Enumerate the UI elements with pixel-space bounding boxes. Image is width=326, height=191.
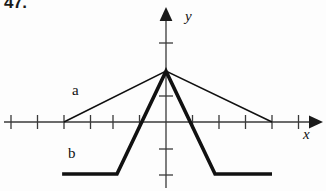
curve-a-label: a	[72, 83, 79, 98]
curve-b-label: b	[68, 146, 76, 161]
x-axis-arrowhead	[309, 116, 323, 129]
y-axis-label: y	[185, 9, 192, 24]
y-axis-arrowhead	[160, 7, 173, 21]
graph-plot	[0, 0, 326, 191]
figure-container: 47.	[0, 0, 326, 191]
x-axis-label: x	[303, 127, 310, 142]
